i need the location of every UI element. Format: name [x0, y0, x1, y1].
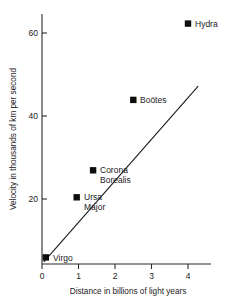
data-point-ursa-major[interactable] [74, 194, 80, 200]
y-tick-label-20: 20 [29, 194, 39, 204]
chart-canvas: 60 40 20 0 1 2 3 4 Distance in billions … [0, 0, 235, 301]
x-tick-label-3: 3 [149, 271, 154, 281]
data-point-corona-borealis[interactable] [90, 167, 96, 173]
point-label-corona-borealis-line1: Corona [100, 165, 128, 175]
x-axis-title: Distance in billions of light years [70, 287, 187, 296]
x-tick-label-2: 2 [113, 271, 118, 281]
hubble-law-chart: 60 40 20 0 1 2 3 4 Distance in billions … [0, 0, 235, 301]
data-point-bootes[interactable] [130, 97, 136, 103]
y-axis-title: Velocity in thousands of km per second [9, 68, 18, 210]
point-label-ursa-major-line2: Major [84, 202, 105, 212]
data-point-virgo[interactable] [43, 254, 49, 260]
point-label-bootes: Boötes [140, 95, 166, 105]
point-label-virgo: Virgo [53, 253, 73, 263]
point-label-ursa-major-line1: Ursa [84, 192, 102, 202]
x-tick-label-0: 0 [40, 271, 45, 281]
x-tick-label-1: 1 [76, 271, 81, 281]
point-label-hydra: Hydra [195, 19, 218, 29]
y-tick-label-40: 40 [29, 111, 39, 121]
y-tick-label-60: 60 [29, 28, 39, 38]
point-label-corona-borealis-line2: Borealis [100, 175, 131, 185]
data-point-hydra[interactable] [185, 20, 191, 26]
x-tick-label-4: 4 [186, 271, 191, 281]
